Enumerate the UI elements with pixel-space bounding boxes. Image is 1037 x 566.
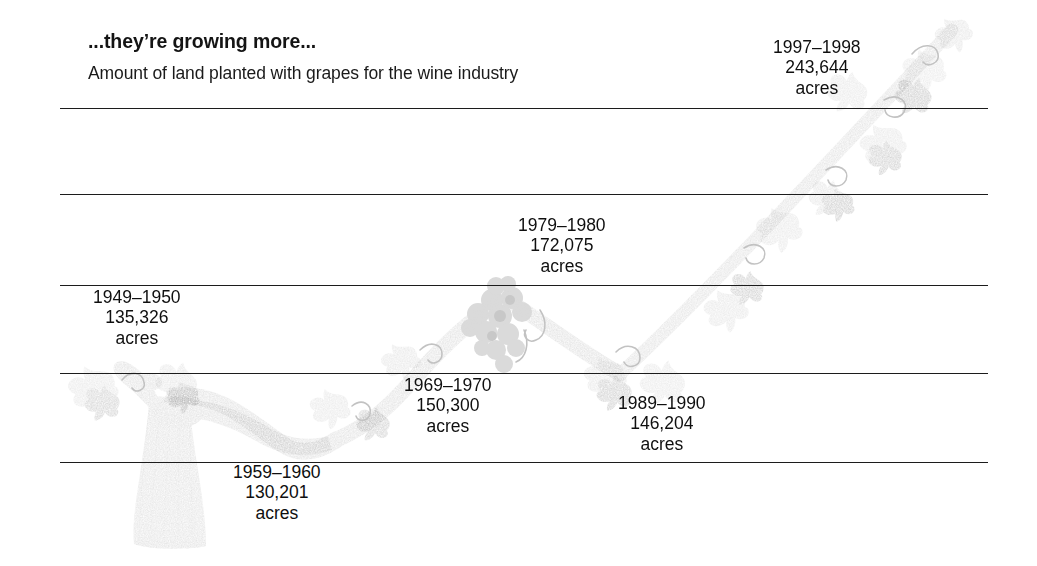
callout-period: 1959–1960: [233, 462, 321, 482]
grape-cluster: [461, 276, 532, 373]
gridline: [60, 373, 988, 374]
chart-subtitle: Amount of land planted with grapes for t…: [88, 63, 518, 84]
grapevine-line-artwork: [0, 0, 1037, 566]
data-callout: 1989–1990 146,204 acres: [618, 393, 706, 454]
callout-value: 172,075: [518, 235, 606, 255]
callout-value: 135,326: [93, 307, 181, 327]
page-title: ...they’re growing more...: [88, 30, 316, 53]
callout-unit: acres: [233, 503, 321, 523]
data-callout: 1969–1970 150,300 acres: [404, 375, 492, 436]
callout-unit: acres: [93, 328, 181, 348]
infographic-figure: ...they’re growing more... Amount of lan…: [0, 0, 1037, 566]
data-callout: 1979–1980 172,075 acres: [518, 215, 606, 276]
callout-value: 146,204: [618, 413, 706, 433]
data-callout: 1997–1998 243,644 acres: [773, 37, 861, 98]
callout-period: 1969–1970: [404, 375, 492, 395]
callout-unit: acres: [518, 256, 606, 276]
gridline: [60, 285, 988, 286]
gridline: [60, 194, 988, 195]
callout-unit: acres: [773, 78, 861, 98]
data-callout: 1949–1950 135,326 acres: [93, 287, 181, 348]
callout-value: 243,644: [773, 57, 861, 77]
callout-period: 1949–1950: [93, 287, 181, 307]
gridline: [60, 462, 988, 463]
data-callout: 1959–1960 130,201 acres: [233, 462, 321, 523]
callout-unit: acres: [404, 416, 492, 436]
callout-period: 1997–1998: [773, 37, 861, 57]
callout-period: 1989–1990: [618, 393, 706, 413]
callout-value: 150,300: [404, 395, 492, 415]
callout-value: 130,201: [233, 482, 321, 502]
callout-unit: acres: [618, 434, 706, 454]
callout-period: 1979–1980: [518, 215, 606, 235]
gridline: [60, 108, 988, 109]
